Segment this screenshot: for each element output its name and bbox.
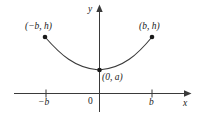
point-label-vertex: (0, a) <box>102 73 123 83</box>
point-marker-left <box>43 35 48 40</box>
x-axis-label: x <box>183 99 187 109</box>
diagram-canvas <box>0 0 199 118</box>
x-tick-label-positive-b: b <box>149 98 154 108</box>
x-tick-label-negative-b: −b <box>38 98 49 108</box>
catenary-curve <box>45 37 152 70</box>
figure-container: (−b, h) (b, h) (0, a) −b b 0 x y <box>0 0 199 118</box>
x-axis-arrowhead <box>184 90 192 96</box>
y-axis-arrowhead <box>96 5 102 13</box>
point-label-right: (b, h) <box>139 22 160 32</box>
y-axis-label: y <box>88 5 92 15</box>
point-marker-right <box>150 35 155 40</box>
point-label-left: (−b, h) <box>25 22 52 32</box>
origin-label: 0 <box>88 97 93 107</box>
